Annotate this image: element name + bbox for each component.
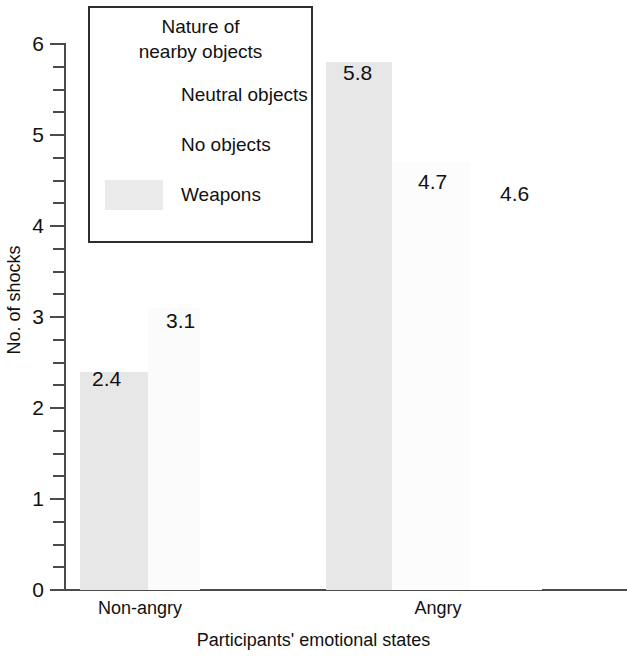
bar-value-4-6: 4.6 [500,183,529,204]
y-tick-minor [53,89,65,91]
y-tick-minor [53,157,65,159]
y-tick-label-6: 6 [4,33,44,54]
y-tick-minor [53,544,65,546]
y-tick-major-3 [50,316,65,318]
legend-item-weapons: Weapons [105,180,301,210]
y-tick-major-6 [50,43,65,45]
legend-label-no-objects: No objects [181,133,271,156]
y-tick-minor [53,384,65,386]
y-tick-major-2 [50,407,65,409]
y-tick-minor [53,475,65,477]
legend-item-no-objects: No objects [105,130,301,160]
y-tick-minor [53,566,65,568]
y-tick-major-0 [50,589,65,591]
bar-non-angry-weapons [80,372,148,590]
y-tick-minor [53,202,65,204]
y-tick-minor [53,271,65,273]
bar-value-4-7: 4.7 [418,171,447,192]
y-tick-major-5 [50,134,65,136]
bar-non-angry-no-objects [148,308,200,590]
bar-angry-weapons [326,62,392,590]
bar-value-5-8: 5.8 [343,62,372,83]
legend-title-line1: Nature of [90,14,311,39]
y-tick-minor [53,293,65,295]
y-tick-minor [53,339,65,341]
y-axis-title: No. of shocks [4,200,24,400]
bar-value-3-1: 3.1 [166,310,195,331]
y-tick-minor [53,248,65,250]
y-tick-label-0: 0 [4,579,44,600]
y-tick-minor [53,66,65,68]
y-tick-minor [53,453,65,455]
legend-swatch-no-objects [105,130,163,160]
legend-item-neutral-objects: Neutral objects [105,80,301,110]
y-tick-label-5: 5 [4,124,44,145]
y-tick-minor [53,521,65,523]
bar-angry-neutral-objects [470,171,542,590]
x-axis-title: Participants' emotional states [0,630,627,650]
legend-swatch-weapons [105,180,163,210]
y-tick-minor [53,180,65,182]
y-tick-major-4 [50,225,65,227]
y-tick-label-1: 1 [4,488,44,509]
bar-value-2-4: 2.4 [92,368,121,389]
y-tick-minor [53,362,65,364]
legend-label-neutral-objects: Neutral objects [181,83,308,106]
bar-angry-no-objects [392,162,470,590]
legend-swatch-neutral-objects [105,80,163,110]
y-tick-minor [53,111,65,113]
legend-label-weapons: Weapons [181,183,261,206]
legend-title-line2: nearby objects [90,39,311,64]
bar-chart: 6 5 4 3 2 1 0 No. of shocks 2.4 3.1 5.8 … [0,0,627,657]
y-tick-minor [53,430,65,432]
x-category-label-non-angry: Non-angry [80,598,200,618]
legend: Nature of nearby objects Neutral objects… [88,6,313,243]
y-tick-label-2: 2 [4,397,44,418]
x-category-label-angry: Angry [388,598,488,618]
y-tick-major-1 [50,498,65,500]
